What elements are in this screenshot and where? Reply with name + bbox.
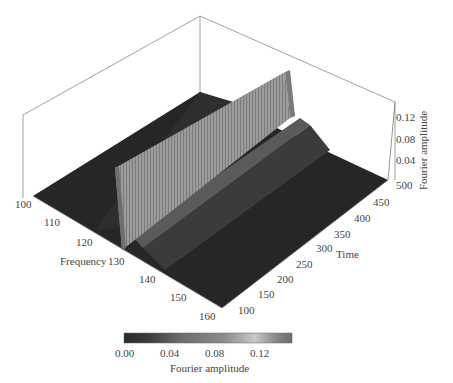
- freq-tick: 140: [139, 273, 156, 285]
- time-tick: 200: [277, 273, 294, 285]
- colorbar-tick: 0.08: [205, 347, 225, 359]
- freq-tick: 100: [15, 198, 32, 210]
- time-tick: 500: [396, 179, 413, 191]
- time-tick: 100: [238, 304, 255, 316]
- freq-tick: 130: [108, 255, 125, 267]
- colorbar-tick: 0.00: [115, 347, 135, 359]
- colorbar-tick: 0.04: [160, 347, 180, 359]
- time-tick: 350: [334, 228, 351, 240]
- time-tick: 400: [354, 212, 371, 224]
- time-tick: 300: [316, 242, 333, 254]
- z-axis-label: Fourier amplitude: [417, 111, 429, 190]
- frequency-axis-label: Frequency: [60, 255, 107, 267]
- colorbar: 0.00 0.04 0.08 0.12 Fourier amplitude: [115, 333, 292, 374]
- z-tick: 0.08: [396, 133, 416, 145]
- z-tick: 0.12: [396, 111, 415, 123]
- freq-tick: 120: [76, 236, 93, 248]
- time-axis-label: Time: [336, 248, 359, 260]
- time-tick: 450: [373, 196, 390, 208]
- colorbar-tick: 0.12: [250, 347, 269, 359]
- z-tick: 0.04: [396, 154, 416, 166]
- freq-tick: 150: [170, 291, 187, 303]
- time-tick: 150: [258, 288, 275, 300]
- colorbar-label: Fourier amplitude: [170, 362, 249, 374]
- time-tick: 250: [296, 258, 313, 270]
- surface-plot: 100 110 120 130 140 150 160 Frequency 10…: [0, 0, 453, 383]
- freq-tick: 160: [199, 310, 216, 322]
- freq-tick: 110: [44, 216, 61, 228]
